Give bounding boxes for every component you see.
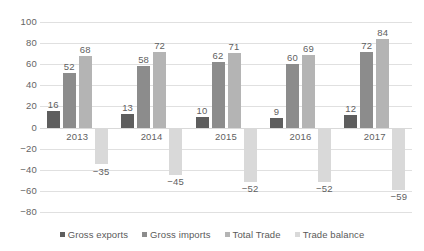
- bar-groups: 165268−352013135872−452014106271−5220159…: [40, 22, 412, 212]
- bar-value-label: 58: [138, 54, 149, 65]
- bar-value-label: 84: [377, 27, 388, 38]
- bar-slot: 62: [212, 22, 225, 212]
- bar[interactable]: [270, 118, 283, 128]
- y-tick-label: −40: [3, 165, 37, 175]
- legend-label: Gross imports: [150, 229, 210, 240]
- bar[interactable]: [137, 66, 150, 127]
- y-tick-label: −60: [3, 186, 37, 196]
- x-category-label: 2017: [338, 131, 412, 142]
- bar[interactable]: [212, 62, 225, 127]
- bar[interactable]: [196, 117, 209, 128]
- bar-slot: 72: [153, 22, 166, 212]
- y-tick-label: −80: [3, 207, 37, 217]
- bar-group: 135872−452014: [114, 22, 188, 212]
- y-tick-label: 0: [3, 123, 37, 133]
- bar-group: 165268−352013: [40, 22, 114, 212]
- bar[interactable]: [302, 55, 315, 128]
- bar-value-label: 71: [229, 41, 240, 52]
- legend-swatch-icon: [60, 232, 65, 237]
- bar-slot: 52: [63, 22, 76, 212]
- bar-group: 127284−592017: [338, 22, 412, 212]
- bar-slot: −52: [318, 22, 331, 212]
- bar[interactable]: [121, 114, 134, 128]
- bar-group: 96069−522016: [263, 22, 337, 212]
- bar-group-bars: 127284−59: [338, 22, 412, 212]
- y-axis: 100806040200−20−40−60−80: [0, 22, 37, 212]
- bar[interactable]: [344, 115, 357, 128]
- bar[interactable]: [360, 52, 373, 128]
- bar-slot: 69: [302, 22, 315, 212]
- legend-swatch-icon: [295, 232, 300, 237]
- bar-value-label: 72: [361, 40, 372, 51]
- bar-slot: 12: [344, 22, 357, 212]
- bar-slot: 84: [376, 22, 389, 212]
- bar[interactable]: [79, 56, 92, 128]
- x-category-label: 2015: [189, 131, 263, 142]
- bar-value-label: 60: [287, 52, 298, 63]
- bar-value-label: 16: [48, 99, 59, 110]
- bar-slot: 58: [137, 22, 150, 212]
- bar-value-label: 9: [274, 106, 279, 117]
- legend-item[interactable]: Gross exports: [60, 229, 128, 240]
- y-tick-label: 80: [3, 38, 37, 48]
- bar-group-bars: 165268−35: [40, 22, 114, 212]
- bar-group-bars: 96069−52: [263, 22, 337, 212]
- bar-value-label: −52: [242, 183, 259, 194]
- bar-value-label: 12: [345, 103, 356, 114]
- bar-value-label: −45: [167, 176, 184, 187]
- y-tick-label: 40: [3, 80, 37, 90]
- bar-value-label: 52: [64, 61, 75, 72]
- bar-slot: −35: [95, 22, 108, 212]
- x-category-label: 2014: [114, 131, 188, 142]
- bar-value-label: −52: [316, 183, 333, 194]
- bar-value-label: 62: [213, 50, 224, 61]
- bar[interactable]: [286, 64, 299, 127]
- bar-slot: 13: [121, 22, 134, 212]
- legend-item[interactable]: Trade balance: [295, 229, 365, 240]
- x-category-label: 2016: [263, 131, 337, 142]
- bar-slot: 72: [360, 22, 373, 212]
- bar-value-label: −35: [93, 166, 110, 177]
- y-tick-label: −20: [3, 144, 37, 154]
- bar[interactable]: [47, 111, 60, 128]
- bar-slot: 10: [196, 22, 209, 212]
- bar-slot: 16: [47, 22, 60, 212]
- bar-group-bars: 135872−45: [114, 22, 188, 212]
- bar-slot: 9: [270, 22, 283, 212]
- gridline: [40, 212, 412, 213]
- bar-group-bars: 106271−52: [189, 22, 263, 212]
- y-tick-label: 100: [3, 17, 37, 27]
- bar-chart: 100806040200−20−40−60−80 165268−35201313…: [0, 0, 424, 251]
- bar[interactable]: [228, 53, 241, 128]
- legend-swatch-icon: [142, 232, 147, 237]
- legend-label: Gross exports: [68, 229, 128, 240]
- bar[interactable]: [63, 73, 76, 128]
- y-tick-label: 20: [3, 101, 37, 111]
- bar-value-label: 68: [80, 44, 91, 55]
- bar-slot: 68: [79, 22, 92, 212]
- bar-value-label: 13: [122, 102, 133, 113]
- plot-area: 165268−352013135872−452014106271−5220159…: [40, 22, 412, 212]
- bar-slot: −52: [244, 22, 257, 212]
- x-category-label: 2013: [40, 131, 114, 142]
- bar[interactable]: [376, 39, 389, 128]
- legend-item[interactable]: Gross imports: [142, 229, 210, 240]
- bar-value-label: 72: [154, 40, 165, 51]
- bar-value-label: 10: [197, 105, 208, 116]
- legend-swatch-icon: [225, 232, 230, 237]
- legend-label: Trade balance: [303, 229, 365, 240]
- legend-label: Total Trade: [233, 229, 281, 240]
- bar-slot: −59: [392, 22, 405, 212]
- bar-slot: 60: [286, 22, 299, 212]
- y-tick-label: 60: [3, 59, 37, 69]
- bar[interactable]: [153, 52, 166, 128]
- bar-group: 106271−522015: [189, 22, 263, 212]
- bar-value-label: 69: [303, 43, 314, 54]
- bar-value-label: −59: [390, 191, 407, 202]
- bar-slot: 71: [228, 22, 241, 212]
- bar-slot: −45: [169, 22, 182, 212]
- legend-item[interactable]: Total Trade: [225, 229, 281, 240]
- chart-legend: Gross exportsGross importsTotal TradeTra…: [0, 229, 424, 240]
